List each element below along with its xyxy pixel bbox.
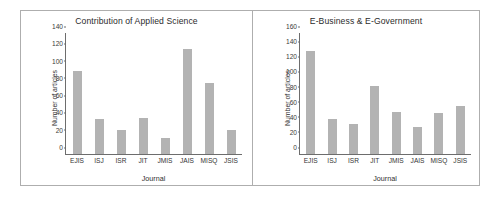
y-axis-tick: 80 <box>56 74 63 81</box>
bar <box>456 106 465 154</box>
y-axis-tick: 60 <box>56 92 63 99</box>
y-axis-tick: 120 <box>286 53 297 60</box>
x-axis-label: Journal <box>299 174 471 183</box>
bar-slot: JMIS <box>154 33 176 154</box>
bar-slot: EJIS <box>300 33 321 154</box>
y-axis-tick: 120 <box>52 40 63 47</box>
y-tick-mark <box>64 112 66 113</box>
bar <box>183 49 192 154</box>
x-axis-tick: JSIS <box>224 157 238 164</box>
bar <box>328 119 337 154</box>
y-tick-mark <box>298 117 300 118</box>
chart-panel-ebusiness-egovernment: E-Business & E-Government Number of arti… <box>252 10 480 186</box>
bar <box>205 83 214 154</box>
y-axis-tick: 0 <box>59 144 63 151</box>
y-tick-mark <box>298 132 300 133</box>
bar <box>370 86 379 154</box>
y-tick-mark <box>64 147 66 148</box>
plot-area: EJISISJISRJITJMISJAISMISQJSIS 0204060801… <box>299 33 471 155</box>
plot-area: EJISISJISRJITJMISJAISMISQJSIS 0204060801… <box>65 33 242 155</box>
bar-slot: JSIS <box>220 33 242 154</box>
x-axis-tick: JIT <box>138 157 147 164</box>
bar <box>413 127 422 154</box>
y-tick-mark <box>64 130 66 131</box>
bar <box>227 130 236 154</box>
y-tick-mark <box>64 78 66 79</box>
bar <box>161 138 170 154</box>
bar <box>117 130 126 154</box>
x-axis-tick: ISJ <box>327 157 337 164</box>
y-axis-tick: 100 <box>286 68 297 75</box>
x-axis-tick: MISQ <box>431 157 448 164</box>
y-axis-tick: 0 <box>293 144 297 151</box>
bar-slot: JAIS <box>176 33 198 154</box>
y-axis-tick: 160 <box>286 23 297 30</box>
bar-slot: ISJ <box>321 33 342 154</box>
y-tick-mark <box>298 102 300 103</box>
y-axis-tick: 40 <box>56 109 63 116</box>
y-axis-tick: 60 <box>290 98 297 105</box>
y-tick-mark <box>64 61 66 62</box>
bar-series: EJISISJISRJITJMISJAISMISQJSIS <box>300 33 471 154</box>
x-axis-label: Journal <box>65 174 242 183</box>
bar <box>139 118 148 154</box>
x-axis-tick: JMIS <box>157 157 172 164</box>
x-axis-tick: JIT <box>370 157 379 164</box>
bar <box>306 51 315 154</box>
x-axis-tick: EJIS <box>304 157 318 164</box>
bar-slot: ISR <box>343 33 364 154</box>
y-axis-tick: 20 <box>290 128 297 135</box>
y-tick-mark <box>64 43 66 44</box>
x-axis-tick: MISQ <box>201 157 218 164</box>
y-tick-mark <box>298 87 300 88</box>
y-tick-mark <box>64 26 66 27</box>
bar <box>392 112 401 154</box>
chart-panel-applied-science: Contribution of Applied Science Number o… <box>20 10 252 186</box>
y-tick-mark <box>64 95 66 96</box>
y-tick-mark <box>298 26 300 27</box>
x-axis-tick: ISR <box>116 157 127 164</box>
bar-slot: ISR <box>110 33 132 154</box>
bar <box>434 113 443 154</box>
x-axis-tick: JMIS <box>389 157 404 164</box>
bar <box>73 71 82 154</box>
bar-slot: ISJ <box>88 33 110 154</box>
x-axis-tick: EJIS <box>70 157 84 164</box>
bar-slot: JMIS <box>386 33 407 154</box>
y-tick-mark <box>298 41 300 42</box>
x-axis-tick: JSIS <box>453 157 467 164</box>
x-axis-tick: ISJ <box>94 157 104 164</box>
y-axis-tick: 100 <box>52 57 63 64</box>
bar-slot: JIT <box>364 33 385 154</box>
x-axis-tick: JAIS <box>180 157 194 164</box>
bar-slot: MISQ <box>428 33 449 154</box>
bar-slot: EJIS <box>66 33 88 154</box>
bar-slot: MISQ <box>198 33 220 154</box>
bar <box>349 124 358 154</box>
y-axis-tick: 140 <box>286 38 297 45</box>
figure-container: Contribution of Applied Science Number o… <box>0 0 498 200</box>
y-tick-mark <box>298 147 300 148</box>
y-axis-tick: 20 <box>56 126 63 133</box>
y-axis-tick: 140 <box>52 23 63 30</box>
x-axis-tick: JAIS <box>411 157 425 164</box>
x-axis-tick: ISR <box>348 157 359 164</box>
bar-series: EJISISJISRJITJMISJAISMISQJSIS <box>66 33 242 154</box>
bar <box>95 119 104 154</box>
y-axis-tick: 80 <box>290 83 297 90</box>
bar-slot: JSIS <box>450 33 471 154</box>
bar-slot: JIT <box>132 33 154 154</box>
bar-slot: JAIS <box>407 33 428 154</box>
y-tick-mark <box>298 71 300 72</box>
y-axis-tick: 40 <box>290 113 297 120</box>
y-tick-mark <box>298 56 300 57</box>
